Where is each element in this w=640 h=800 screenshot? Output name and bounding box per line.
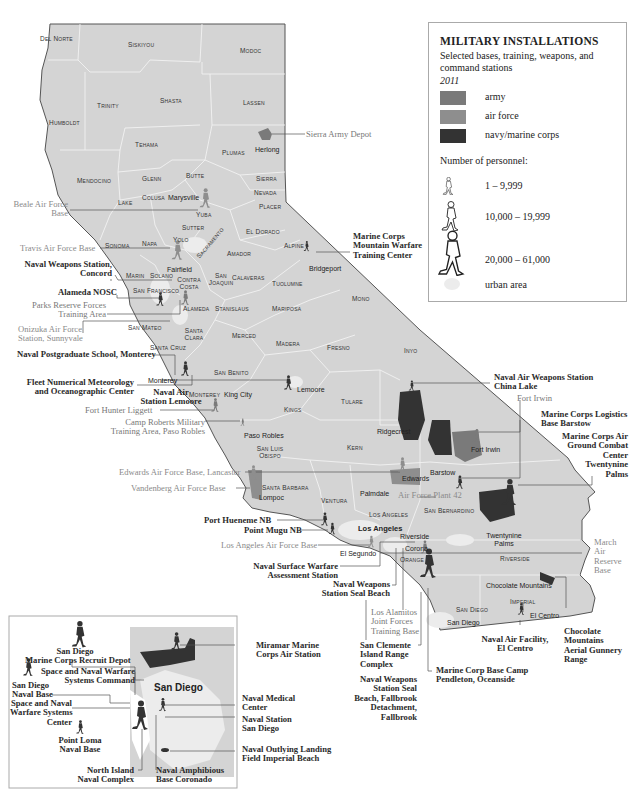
army-swatch (440, 91, 466, 105)
county-label: San Diego (456, 606, 488, 613)
county-label: Fresno (327, 344, 350, 351)
county-label: Inyo (404, 347, 417, 354)
label-line: Center (242, 703, 295, 712)
city-label: Los Angeles (358, 524, 402, 533)
label-march-arb: March Air Reserve Base (594, 538, 622, 576)
county-label: San Luis Obispo (252, 445, 288, 459)
label-line: Field Imperial Beach (242, 754, 331, 763)
legend-air-force-label: air force (485, 110, 519, 121)
label-mcrd: San Diego Marine Corps Recruit Depot (25, 647, 125, 666)
label-chocolate-mountains-range: Chocolate Mountains Aerial Gunnery Range (564, 627, 622, 665)
label-sierra-army-depot: Sierra Army Depot (306, 130, 371, 139)
city-label: Bridgeport (309, 265, 341, 272)
county-label: Mono (352, 295, 370, 302)
city-label: San Diego (447, 619, 480, 626)
legend-navy-label: navy/marine corps (485, 129, 559, 140)
county-label: Solano (150, 272, 173, 279)
county-label: Butte (186, 172, 204, 179)
label-point-mugu: Point Mugu NB (244, 526, 302, 535)
label-sd-naval-base: San Diego Naval Base (12, 681, 53, 700)
label-beale-afb: Beale Air Force Base (10, 200, 68, 219)
label-concord: Naval Weapons Station, Concord (12, 260, 112, 279)
county-label: Nevada (254, 189, 276, 196)
label-vandenberg-afb: Vandenberg Air Force Base (131, 484, 226, 493)
city-label: Marysville (168, 194, 199, 201)
legend-army-label: army (485, 91, 506, 102)
label-line: Station Seal Beach (320, 589, 390, 598)
county-label: San Francisco (133, 287, 179, 294)
label-nps-monterey: Naval Postgraduate School, Monterey (17, 350, 156, 359)
urban-area-icon (443, 277, 461, 291)
label-line: Base Barstow (541, 419, 627, 428)
county-label: Marin (126, 272, 144, 279)
walking-soldier-large-icon (435, 228, 469, 278)
label-spawar-center: Space and Naval Warfare Systems Center (10, 699, 72, 727)
county-label: Tehama (135, 141, 158, 148)
navy-swatch (440, 129, 466, 143)
county-label: Lake (118, 199, 132, 206)
label-line: Palms (540, 470, 628, 479)
label-line: Marine Corps Recruit Depot (25, 656, 125, 665)
county-label: Sonoma (105, 242, 129, 249)
label-north-island: North Island Naval Complex (70, 766, 134, 785)
label-coronado: Naval Amphibious Base Coronado (156, 766, 224, 785)
label-nswas: Naval Surface Warfare Assessment Station (250, 562, 338, 581)
label-miramar: Miramar Marine Corps Air Station (256, 641, 321, 660)
county-label: Contra Costa (175, 276, 203, 290)
label-line: Pendleton, Oceanside (436, 675, 528, 684)
county-label: San Benito (214, 369, 249, 376)
label-line: Training Center (353, 251, 422, 260)
city-label: Lompoc (259, 494, 284, 501)
county-label: Lassen (243, 99, 265, 106)
label-line: Base (594, 566, 622, 575)
county-label: Madera (276, 340, 300, 347)
label-camp-roberts: Camp Roberts Military Training Area, Pas… (105, 418, 205, 437)
city-label: Chocolate Mountains (486, 582, 552, 589)
label-line: Complex (360, 660, 411, 669)
label-line: Base Coronado (156, 775, 224, 784)
county-label: Stanislaus (215, 305, 249, 312)
inset-title: San Diego (154, 682, 203, 693)
label-alameda-nosc: Alameda NOSC (58, 288, 117, 297)
county-label: Mendocino (77, 177, 111, 184)
county-label: Placer (259, 203, 281, 210)
label-la-afb: Los Angeles Air Force Base (221, 541, 317, 550)
county-label: Sierra (256, 175, 277, 182)
label-line: Fallbrook (342, 713, 417, 722)
county-label: Alpine (284, 242, 304, 249)
label-onizuka: Onizuka Air Force Station, Sunnyvale (18, 325, 83, 344)
label-san-clemente: San Clemente Island Range Complex (360, 641, 411, 669)
city-label: Ridgecrest (377, 428, 410, 435)
label-naf-el-centro: Naval Air Facility, El Centro (481, 635, 549, 654)
label-line: Naval Complex (70, 775, 134, 784)
county-label: Calaveras (232, 274, 265, 281)
city-label: El Centro (530, 612, 559, 619)
label-port-hueneme: Port Hueneme NB (204, 516, 271, 525)
label-seal-beach: Naval Weapons Station Seal Beach (320, 580, 390, 599)
label-line: Training Base (371, 627, 419, 636)
county-label: Shasta (160, 97, 182, 104)
county-label: Napa (142, 240, 157, 247)
county-label: San Bernardino (424, 507, 474, 514)
label-parks-rfta: Parks Reserve Forces Training Area (20, 301, 106, 320)
label-line: San Diego (242, 724, 292, 733)
county-label: Humboldt (49, 119, 80, 126)
city-label: Fort Irwin (471, 446, 500, 453)
label-china-lake: Naval Air Weapons Station China Lake (494, 373, 593, 392)
county-label: Alameda (183, 305, 209, 312)
county-label: Trinity (97, 102, 119, 109)
county-label: San Mateo (128, 324, 162, 331)
county-label: Santa Barbara (262, 484, 309, 491)
walking-soldier-small-icon (441, 175, 457, 197)
legend-urban-label: urban area (485, 279, 527, 290)
label-point-loma: Point Loma Naval Base (55, 736, 105, 755)
county-label: Glenn (142, 175, 161, 182)
county-label: Colusa (142, 194, 165, 201)
label-line: Station, Sunnyvale (18, 334, 83, 343)
label-line: Concord (12, 269, 112, 278)
label-line: China Lake (494, 382, 593, 391)
county-label: Santa Clara (183, 327, 205, 341)
air-force-swatch (440, 110, 466, 124)
label-line: Range (564, 655, 622, 664)
legend-year: 2011 (440, 75, 459, 86)
